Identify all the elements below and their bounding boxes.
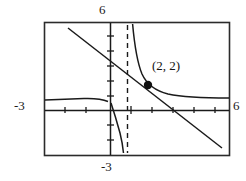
line-series bbox=[68, 28, 222, 148]
plot-canvas bbox=[0, 0, 246, 181]
point-marker-2-2 bbox=[144, 81, 152, 89]
figure-screenshot: ) 6 -3 6 -3 (2, 2) bbox=[0, 0, 246, 181]
plot-frame bbox=[45, 23, 230, 156]
curve-left-branch-upper bbox=[45, 99, 108, 102]
